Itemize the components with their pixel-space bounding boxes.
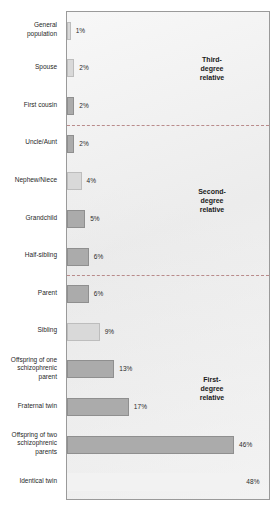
bar-value-label: 17% (134, 403, 147, 410)
bar-value-label: 1% (76, 27, 86, 34)
bar (67, 59, 74, 77)
bar-value-label: 6% (94, 253, 104, 260)
bar (67, 97, 74, 115)
category-label: Offspring of one schizophrenic parent (0, 356, 57, 382)
category-label: Fraternal twin (0, 402, 57, 411)
category-label: Identical twin (0, 477, 57, 486)
category-label: Grandchild (0, 214, 57, 223)
bar (67, 135, 74, 153)
category-label: Nephew/Niece (0, 176, 57, 185)
plot-area: 1%2%2%2%4%5%6%6%9%13%17%46%48% Third- de… (66, 11, 270, 500)
category-label: Uncle/Aunt (0, 138, 57, 147)
bar-value-label: 4% (87, 177, 97, 184)
group-label: First- degree relative (177, 375, 247, 402)
bar (67, 360, 114, 378)
category-label: Spouse (0, 63, 57, 72)
bar-value-label: 5% (90, 215, 100, 222)
figure: General populationSpouseFirst cousinUncl… (0, 0, 279, 515)
bar (67, 285, 89, 303)
category-label: General population (0, 21, 57, 38)
group-divider (67, 275, 269, 276)
category-label: Parent (0, 289, 57, 298)
bar (67, 473, 241, 491)
category-label: Half-sibling (0, 251, 57, 260)
bar-value-label: 9% (105, 328, 115, 335)
bar-value-label: 2% (79, 64, 89, 71)
bar-value-label: 48% (246, 478, 259, 485)
category-label: Offspring of two schizophrenic parents (0, 431, 57, 457)
bar-value-label: 46% (239, 441, 252, 448)
bar (67, 248, 89, 266)
bar (67, 22, 71, 40)
bar-value-label: 2% (79, 102, 89, 109)
bar-value-label: 13% (119, 365, 132, 372)
bar (67, 436, 234, 454)
bar (67, 172, 82, 190)
bar (67, 210, 85, 228)
category-label: First cousin (0, 101, 57, 110)
group-label: Second- degree relative (177, 187, 247, 214)
bar-value-label: 6% (94, 290, 104, 297)
group-divider (67, 125, 269, 126)
bar (67, 323, 100, 341)
group-label: Third- degree relative (177, 55, 247, 82)
bar (67, 398, 129, 416)
bar-value-label: 2% (79, 140, 89, 147)
category-label: Sibling (0, 326, 57, 335)
